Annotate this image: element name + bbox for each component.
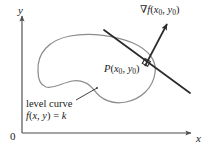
origin-label: 0 (10, 131, 16, 143)
point-label: P(x0, y0) (104, 63, 140, 76)
figure-container: y x 0 ∇f(x0, y0) P(x0, y0) level curve f… (0, 0, 210, 154)
leader-line (76, 88, 97, 100)
diagram-canvas (0, 0, 210, 154)
y-axis-label: y (18, 5, 23, 17)
level-curve-caption-line1: level curve (26, 98, 72, 109)
point-close-paren: ) (136, 63, 140, 74)
gradient-vector-label: ∇f(x0, y0) (140, 4, 179, 17)
level-curve-equals: = (51, 110, 62, 121)
gradient-vector-arrow (145, 24, 167, 66)
level-curve-constant: k (62, 110, 67, 121)
x-axis-label: x (196, 133, 201, 145)
level-curve-equation: f(x, y) = k (26, 110, 72, 121)
leader-line-dot (96, 87, 98, 89)
gradient-close-paren: ) (176, 4, 180, 15)
level-curve-caption: level curve f(x, y) = k (26, 98, 72, 121)
